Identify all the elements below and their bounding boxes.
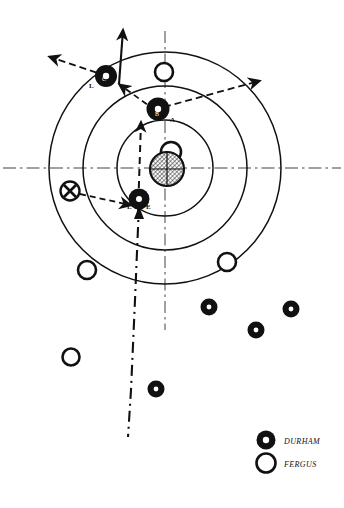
label-point-c: C (102, 76, 106, 82)
label-point-a: A (170, 116, 175, 124)
legend: DURHAM FERGUS (257, 431, 322, 473)
hatched-echo-marker[interactable] (150, 152, 184, 186)
figure-root: C L B A E L DURHAM FERGUS (0, 0, 344, 508)
durham-marker[interactable] (248, 322, 265, 339)
label-point-l1: L (89, 82, 94, 90)
fergus-marker[interactable] (78, 261, 96, 279)
long-dashed-track (128, 204, 139, 437)
durham-legend-icon-center (263, 437, 269, 443)
fergus-legend-icon (257, 454, 276, 473)
vector-group (50, 30, 259, 219)
vector-up-solid (119, 30, 123, 84)
crossed-circle-marker[interactable] (61, 182, 80, 201)
vector-B-northeast (164, 81, 259, 107)
durham-marker[interactable] (148, 381, 165, 398)
label-point-l2: L (127, 203, 132, 211)
durham-marker[interactable] (147, 98, 170, 121)
durham-marker[interactable] (283, 301, 300, 318)
legend-label-fergus: FERGUS (283, 460, 317, 469)
durham-marker[interactable] (201, 299, 218, 316)
label-point-e: E (146, 203, 151, 211)
legend-label-durham: DURHAM (283, 437, 321, 446)
radar-plot-canvas: C L B A E L DURHAM FERGUS (0, 0, 344, 508)
fergus-marker[interactable] (63, 349, 80, 366)
legend-entry-durham[interactable]: DURHAM (257, 431, 322, 450)
point-label-group: C L B A E L (89, 76, 175, 211)
fergus-marker[interactable] (155, 63, 173, 81)
fergus-marker[interactable] (218, 253, 236, 271)
legend-entry-fergus[interactable]: FERGUS (257, 454, 317, 473)
label-point-b: B (155, 111, 159, 117)
